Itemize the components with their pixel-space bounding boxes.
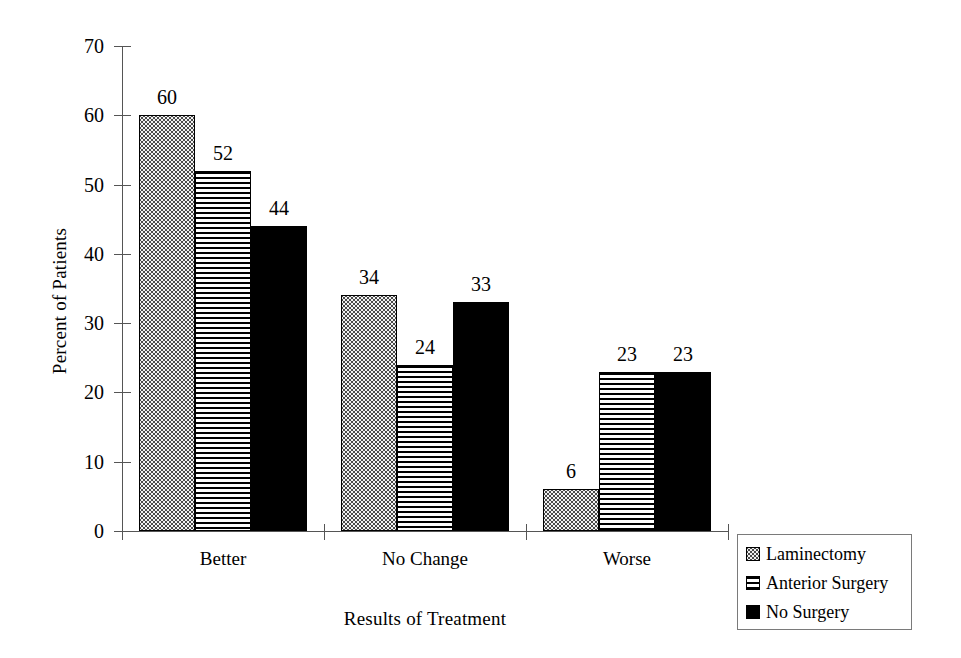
y-tick-label: 0 bbox=[58, 521, 104, 541]
bar-value-label: 44 bbox=[251, 198, 307, 218]
x-axis-line bbox=[122, 531, 729, 532]
x-category-label: Better bbox=[122, 548, 324, 570]
bar-value-label: 6 bbox=[543, 461, 599, 481]
bar-value-label: 24 bbox=[397, 337, 453, 357]
bar-value-label: 52 bbox=[195, 143, 251, 163]
bar-value-label: 60 bbox=[139, 87, 195, 107]
legend-swatch-striped bbox=[746, 576, 760, 590]
bar bbox=[397, 365, 453, 531]
y-tick-label: 70 bbox=[58, 36, 104, 56]
x-category-label: Worse bbox=[526, 548, 728, 570]
bar bbox=[655, 372, 711, 531]
y-tick-mark bbox=[114, 185, 131, 186]
legend-item: No Surgery bbox=[746, 597, 911, 626]
bar bbox=[195, 171, 251, 531]
y-tick-label: 60 bbox=[58, 105, 104, 125]
y-tick-label: 40 bbox=[58, 244, 104, 264]
x-tick-mark bbox=[526, 524, 527, 540]
legend-item: Anterior Surgery bbox=[746, 568, 911, 597]
legend-swatch-solid bbox=[746, 605, 760, 619]
bar bbox=[251, 226, 307, 531]
legend-label: Laminectomy bbox=[766, 545, 866, 563]
y-tick-label: 20 bbox=[58, 382, 104, 402]
y-tick-mark bbox=[114, 323, 131, 324]
bar-value-label: 23 bbox=[599, 344, 655, 364]
x-tick-mark bbox=[324, 524, 325, 540]
legend-item: Laminectomy bbox=[746, 539, 911, 568]
x-tick-mark bbox=[122, 524, 123, 540]
bar bbox=[341, 295, 397, 531]
y-tick-label: 50 bbox=[58, 175, 104, 195]
plot-area: 60524434243362323 bbox=[122, 46, 728, 531]
y-tick-mark bbox=[114, 462, 131, 463]
legend: LaminectomyAnterior SurgeryNo Surgery bbox=[737, 534, 912, 630]
x-tick-mark bbox=[728, 524, 729, 540]
y-tick-mark bbox=[114, 392, 131, 393]
bar-chart: Percent of Patients 010203040506070 6052… bbox=[0, 0, 961, 658]
bar bbox=[139, 115, 195, 531]
bar-value-label: 23 bbox=[655, 344, 711, 364]
y-tick-label: 10 bbox=[58, 452, 104, 472]
y-tick-mark bbox=[114, 254, 131, 255]
y-tick-mark bbox=[114, 46, 131, 47]
bar bbox=[543, 489, 599, 531]
bar bbox=[599, 372, 655, 531]
legend-label: No Surgery bbox=[766, 603, 849, 621]
x-axis-title: Results of Treatment bbox=[122, 608, 728, 630]
bar bbox=[453, 302, 509, 531]
y-tick-mark bbox=[114, 115, 131, 116]
legend-label: Anterior Surgery bbox=[766, 574, 888, 592]
bar-value-label: 33 bbox=[453, 274, 509, 294]
legend-swatch-dotted bbox=[746, 547, 760, 561]
y-axis-tick-labels: 010203040506070 bbox=[58, 0, 104, 658]
bar-value-label: 34 bbox=[341, 267, 397, 287]
y-tick-label: 30 bbox=[58, 313, 104, 333]
x-category-label: No Change bbox=[324, 548, 526, 570]
